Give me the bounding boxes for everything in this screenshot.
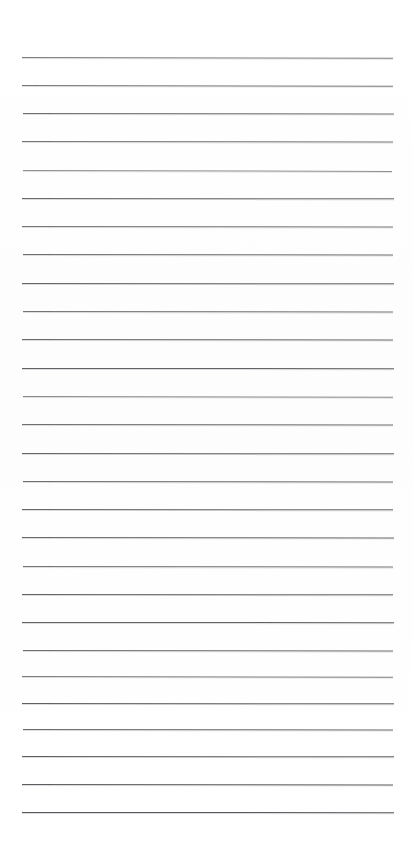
rule-line	[22, 368, 394, 369]
rule-line	[23, 170, 392, 172]
rule-line	[22, 812, 394, 813]
rule-line	[22, 594, 393, 595]
rule-line	[23, 396, 393, 398]
rule-line	[22, 57, 393, 59]
rule-line	[23, 311, 393, 313]
rule-line	[23, 729, 393, 730]
rule-line	[22, 339, 393, 340]
rule-line	[22, 622, 394, 623]
rule-line	[22, 141, 393, 143]
rule-line	[22, 756, 394, 757]
rule-line	[23, 566, 393, 568]
ruled-lines-layer	[0, 0, 413, 855]
rule-line	[23, 650, 393, 652]
rule-line	[23, 254, 393, 255]
rule-line	[23, 113, 394, 114]
rule-line	[22, 537, 394, 538]
rule-line	[22, 226, 393, 228]
rule-line	[22, 453, 394, 454]
rule-line	[22, 85, 393, 87]
rule-line	[22, 198, 394, 199]
rule-line	[23, 481, 393, 483]
rule-line	[22, 424, 393, 425]
notebook-page	[0, 0, 413, 855]
rule-line	[22, 784, 393, 785]
rule-line	[22, 676, 393, 678]
rule-line	[22, 703, 394, 704]
rule-line	[22, 283, 394, 284]
rule-line	[22, 509, 393, 510]
